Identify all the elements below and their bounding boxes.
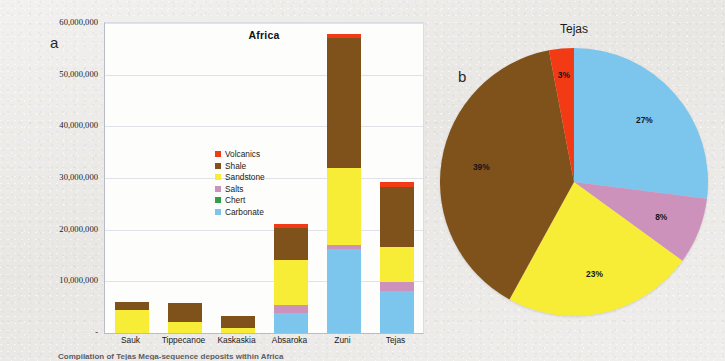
stacked-bar[interactable] bbox=[327, 34, 361, 333]
stacked-bar[interactable] bbox=[274, 224, 308, 333]
pie-svg bbox=[438, 46, 710, 318]
x-axis-tick-label: Kaskaskia bbox=[210, 335, 263, 351]
legend-swatch-icon bbox=[215, 151, 221, 157]
bar-segment-sandstone[interactable] bbox=[168, 322, 202, 333]
pie-label-shale: 39% bbox=[473, 162, 490, 172]
panel-letter-b: b bbox=[458, 68, 466, 85]
legend-item[interactable]: Volcanics bbox=[215, 149, 265, 159]
bar-slot bbox=[158, 23, 211, 333]
bar-segment-carbonate[interactable] bbox=[327, 249, 361, 333]
bar-segment-shale[interactable] bbox=[380, 187, 414, 247]
bar-segment-sandstone[interactable] bbox=[327, 168, 361, 245]
pie-chart-title: Tejas bbox=[434, 22, 714, 36]
pie-chart-graphic: 27%8%23%39%3% bbox=[438, 46, 710, 318]
legend-item[interactable]: Shale bbox=[215, 161, 265, 171]
y-axis-tick-label: 40,000,000 bbox=[59, 120, 98, 130]
legend-item-label: Volcanics bbox=[225, 149, 260, 159]
x-axis-tick-label: Tippecanoe bbox=[157, 335, 210, 351]
legend-item-label: Shale bbox=[225, 161, 246, 171]
y-axis-tick-label: 50,000,000 bbox=[59, 69, 98, 79]
bar-segment-salts[interactable] bbox=[274, 305, 308, 313]
legend-swatch-icon bbox=[215, 174, 221, 180]
plot-area: Africa VolcanicsShaleSandstoneSaltsChert… bbox=[104, 22, 424, 334]
pie-label-sandstone: 23% bbox=[586, 269, 603, 279]
bar-slot bbox=[264, 23, 317, 333]
stacked-bar[interactable] bbox=[115, 302, 149, 334]
stacked-bar[interactable] bbox=[168, 303, 202, 333]
bar-segment-shale[interactable] bbox=[327, 38, 361, 168]
x-axis-tick-label: Sauk bbox=[104, 335, 157, 351]
stacked-bar[interactable] bbox=[221, 316, 255, 333]
pie-label-volcanics: 3% bbox=[558, 70, 570, 80]
bar-segment-salts[interactable] bbox=[380, 282, 414, 291]
x-axis-labels: SaukTippecanoeKaskaskiaAbsarokaZuniTejas bbox=[104, 335, 422, 351]
bar-chart-panel: a -10,000,00020,000,00030,000,00040,000,… bbox=[36, 10, 426, 340]
legend-swatch-icon bbox=[215, 186, 221, 192]
stacked-bar[interactable] bbox=[380, 182, 414, 333]
bar-segment-shale[interactable] bbox=[221, 316, 255, 328]
legend-item-label: Chert bbox=[225, 195, 245, 205]
legend-swatch-icon bbox=[215, 163, 221, 169]
x-axis-tick-label: Tejas bbox=[369, 335, 422, 351]
bar-segment-carbonate[interactable] bbox=[380, 291, 414, 333]
bar-segment-carbonate[interactable] bbox=[274, 313, 308, 333]
legend-item-label: Salts bbox=[225, 184, 243, 194]
y-axis-tick-label: - bbox=[95, 327, 98, 337]
bar-segment-sandstone[interactable] bbox=[380, 247, 414, 282]
legend-item[interactable]: Chert bbox=[215, 195, 265, 205]
x-axis-tick-label: Zuni bbox=[316, 335, 369, 351]
legend-item[interactable]: Salts bbox=[215, 184, 265, 194]
y-axis-tick-label: 20,000,000 bbox=[59, 224, 98, 234]
legend-item[interactable]: Carbonate bbox=[215, 207, 265, 217]
bar-segment-shale[interactable] bbox=[274, 228, 308, 261]
bar-slot bbox=[317, 23, 370, 333]
bar-segment-shale[interactable] bbox=[168, 303, 202, 322]
legend-swatch-icon bbox=[215, 197, 221, 203]
y-axis-tick-label: 60,000,000 bbox=[59, 17, 98, 27]
legend-item[interactable]: Sandstone bbox=[215, 172, 265, 182]
legend-item-label: Carbonate bbox=[225, 207, 264, 217]
x-axis-tick-label: Absaroka bbox=[263, 335, 316, 351]
bar-slot bbox=[105, 23, 158, 333]
figure-caption: Compilation of Tejas Mega-sequence depos… bbox=[58, 352, 698, 360]
pie-label-salts: 8% bbox=[655, 212, 667, 222]
chart-legend: VolcanicsShaleSandstoneSaltsChertCarbona… bbox=[215, 149, 265, 219]
y-axis-tick-label: 10,000,000 bbox=[59, 275, 98, 285]
bar-segment-sandstone[interactable] bbox=[274, 260, 308, 304]
bar-slot bbox=[370, 23, 423, 333]
legend-swatch-icon bbox=[215, 209, 221, 215]
legend-item-label: Sandstone bbox=[225, 172, 265, 182]
pie-label-carbonate: 27% bbox=[636, 115, 653, 125]
bar-segment-sandstone[interactable] bbox=[221, 328, 255, 333]
bar-segment-shale[interactable] bbox=[115, 302, 149, 311]
pie-chart-panel: Tejas 27%8%23%39%3% bbox=[434, 12, 714, 352]
bar-segment-sandstone[interactable] bbox=[115, 310, 149, 333]
y-axis-tick-label: 30,000,000 bbox=[59, 172, 98, 182]
y-axis-labels: -10,000,00020,000,00030,000,00040,000,00… bbox=[36, 22, 104, 332]
